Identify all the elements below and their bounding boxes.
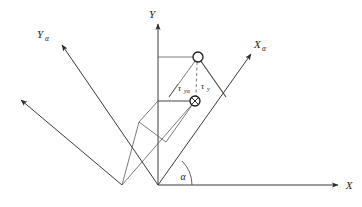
alpha-angle-label: α xyxy=(180,171,186,182)
tau-y-alpha-symbol: τ xyxy=(178,83,182,93)
y-alpha-axis-line xyxy=(62,45,158,185)
construct-upper-slant-b xyxy=(169,84,178,97)
tau-y-subscript: y xyxy=(206,86,210,92)
coordinate-system-diagram: Y X X α Y α α τ yα τ y xyxy=(0,0,362,207)
figure-canvas: Y X X α Y α α τ yα τ y xyxy=(0,0,362,207)
upper-point-marker xyxy=(193,52,203,62)
construct-yaxis-to-parallelogram xyxy=(139,101,158,122)
x-alpha-axis-subscript: α xyxy=(262,44,267,53)
construct-parallelogram-base xyxy=(139,122,166,142)
x-alpha-axis-label: X xyxy=(253,38,262,50)
x-axis-label: X xyxy=(345,179,354,191)
y-alpha-axis-subscript: α xyxy=(45,34,50,43)
construct-parallel-yalpha-a xyxy=(166,101,195,142)
y-alpha-axis-label: Y xyxy=(37,28,45,40)
tau-y-symbol: τ xyxy=(201,81,205,91)
y-axis-label: Y xyxy=(149,8,157,20)
tau-y-alpha-subscript: yα xyxy=(183,88,191,94)
tau-y-dashed-segment xyxy=(196,62,197,96)
y-alpha-parallel-line xyxy=(21,100,122,185)
construct-to-xalpha-upper xyxy=(198,57,226,97)
x-alpha-axis-line xyxy=(158,54,251,185)
